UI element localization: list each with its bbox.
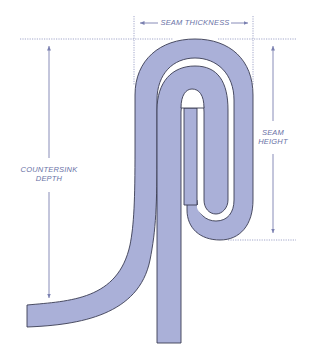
end-hook-tail xyxy=(184,108,197,205)
countersink-depth-label-line2: DEPTH xyxy=(14,174,84,183)
seam-thickness-label: SEAM THICKNESS xyxy=(160,18,230,27)
countersink-depth-label-line1: COUNTERSINK xyxy=(14,165,84,174)
seam-height-label-line2: HEIGHT xyxy=(250,137,296,146)
seam-height-label: SEAM HEIGHT xyxy=(250,128,296,146)
countersink-depth-label: COUNTERSINK DEPTH xyxy=(14,165,84,183)
seam-height-label-line1: SEAM xyxy=(250,128,296,137)
seam-cross-section xyxy=(27,39,253,343)
